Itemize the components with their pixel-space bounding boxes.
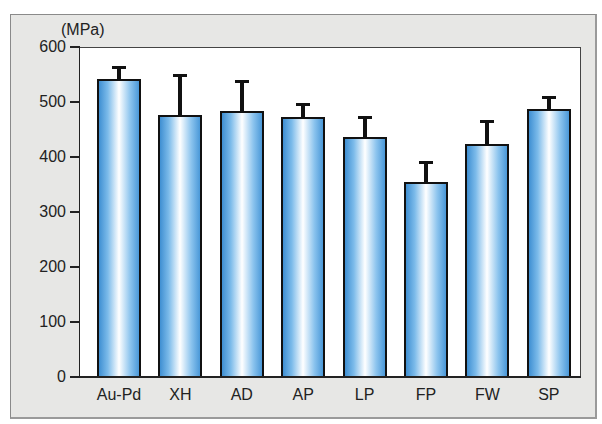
y-tick-label: 600: [10, 39, 66, 55]
x-tick-label: LP: [330, 386, 400, 404]
error-bar: [485, 121, 489, 145]
error-bar-cap: [480, 120, 494, 123]
bar-sp: [527, 109, 571, 377]
x-tick-label: XH: [145, 386, 215, 404]
bar-lp: [343, 137, 387, 377]
y-tick: [70, 321, 80, 323]
y-tick: [70, 211, 80, 213]
error-bar: [301, 104, 305, 118]
error-bar-cap: [542, 96, 556, 99]
x-tick-label: AP: [268, 386, 338, 404]
y-tick: [70, 101, 80, 103]
bar-fw: [465, 144, 509, 377]
error-bar-cap: [112, 66, 126, 69]
x-tick-label: Au-Pd: [84, 386, 154, 404]
y-tick-label: 300: [10, 204, 66, 220]
x-tick-label: AD: [207, 386, 277, 404]
error-bar: [240, 81, 244, 112]
y-tick-label: 400: [10, 149, 66, 165]
error-bar: [363, 117, 367, 138]
error-bar: [178, 75, 182, 116]
bar-fp: [404, 182, 448, 377]
error-bar-cap: [296, 103, 310, 106]
y-axis-unit-label: (MPa): [61, 21, 105, 39]
error-bar-cap: [173, 74, 187, 77]
bar-ad: [220, 111, 264, 377]
x-tick-label: FP: [391, 386, 461, 404]
x-tick-label: SP: [514, 386, 584, 404]
y-tick-label: 0: [10, 369, 66, 385]
error-bar-cap: [358, 116, 372, 119]
y-tick-label: 100: [10, 314, 66, 330]
bar-au-pd: [97, 79, 141, 377]
error-bar: [424, 162, 428, 183]
error-bar-cap: [419, 161, 433, 164]
error-bar-cap: [235, 80, 249, 83]
bar-xh: [158, 115, 202, 377]
x-axis-line: [70, 376, 581, 378]
y-tick-label: 500: [10, 94, 66, 110]
y-tick: [70, 46, 80, 48]
x-tick-label: FW: [452, 386, 522, 404]
y-tick: [70, 266, 80, 268]
bar-ap: [281, 117, 325, 377]
y-tick-label: 200: [10, 259, 66, 275]
y-tick: [70, 156, 80, 158]
